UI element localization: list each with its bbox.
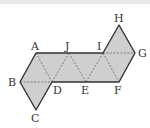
label-B: B	[8, 76, 16, 89]
label-J: J	[64, 40, 69, 53]
label-A: A	[30, 40, 40, 53]
label-F: F	[114, 84, 122, 97]
label-C: C	[31, 112, 39, 125]
label-E: E	[81, 84, 89, 97]
label-G: G	[138, 47, 147, 60]
label-H: H	[114, 12, 124, 25]
label-I: I	[97, 40, 101, 53]
label-D: D	[53, 84, 62, 97]
net-fill	[20, 25, 135, 110]
top-cut-text	[0, 0, 150, 4]
octahedron-net-diagram: A J I H G B D E F C	[0, 0, 150, 128]
